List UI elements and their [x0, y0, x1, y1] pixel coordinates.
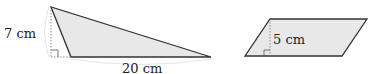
right-angle-mark	[51, 50, 58, 57]
geometry-figures: 7 cm 20 cm 5 cm	[0, 0, 378, 74]
triangle-shape	[51, 7, 211, 57]
parallelogram-figure: 5 cm	[245, 19, 367, 56]
triangle-height-label: 7 cm	[4, 26, 36, 41]
height-brace	[45, 7, 50, 57]
parallelogram-shape	[245, 19, 367, 56]
parallelogram-height-label: 5 cm	[273, 32, 305, 47]
triangle-base-label: 20 cm	[122, 61, 162, 74]
triangle-figure: 7 cm 20 cm	[4, 7, 211, 74]
